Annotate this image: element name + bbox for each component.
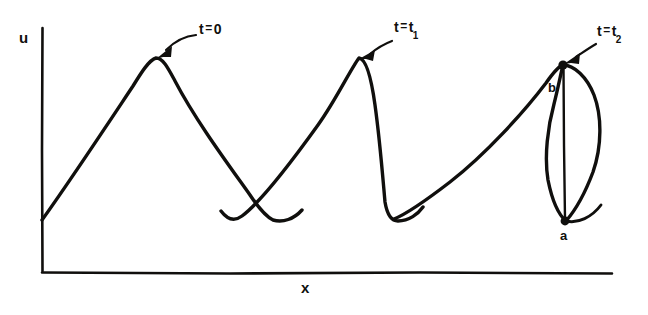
- x-axis-label: x: [301, 279, 310, 296]
- arrow-t2: [564, 44, 596, 64]
- figure-root: u x t=0 t=t1 t=t2 b a: [0, 0, 648, 315]
- segment-ab: [564, 67, 566, 219]
- annotation-t2-subscript: 2: [616, 34, 622, 45]
- annotation-t2-equals: =: [602, 23, 612, 37]
- point-a-dot: [561, 217, 570, 226]
- annotation-t0: t=0: [199, 21, 222, 37]
- segment-ab-line: [564, 67, 566, 219]
- y-axis-line: [42, 28, 43, 271]
- annotation-t0-equals: =: [204, 21, 214, 35]
- arrow-t0: [156, 35, 196, 59]
- annotation-t0-value: 0: [214, 21, 222, 37]
- annotation-t1-subscript: 1: [413, 30, 419, 41]
- x-axis-line: [42, 273, 612, 274]
- annotation-t1-equals: =: [399, 19, 409, 33]
- annotation-t2: t=t2: [597, 23, 623, 42]
- point-b-dot: [558, 60, 567, 69]
- diagram-canvas: [0, 0, 648, 315]
- axes-group: [42, 28, 612, 274]
- point-b-label: b: [548, 80, 556, 95]
- curve-t2-path: [394, 65, 600, 221]
- annotation-t1: t=t1: [394, 19, 420, 38]
- arrow-t1: [359, 41, 392, 61]
- y-axis-label: u: [19, 29, 29, 46]
- curve-t2: [394, 65, 601, 222]
- point-a-label: a: [560, 228, 568, 243]
